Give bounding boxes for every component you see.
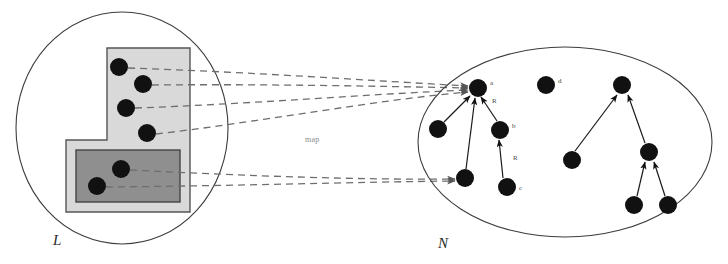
graph-node-h	[563, 151, 581, 169]
graph-edge-label-R2: R	[513, 154, 518, 162]
graph-edge-j-to-i	[637, 162, 645, 196]
right-set-group: a b c d R R N	[418, 47, 712, 251]
left-point-p2	[134, 75, 152, 93]
graph-node-e	[456, 169, 474, 187]
right-set-label: N	[437, 235, 449, 251]
graph-node-g	[613, 76, 631, 94]
left-set-group: L	[16, 12, 228, 248]
graph-edge-c-to-b	[499, 140, 503, 178]
graph-edge-f-to-a	[444, 96, 470, 122]
left-point-p3	[117, 99, 135, 117]
graph-node-label-a: a	[490, 79, 494, 87]
left-point-p6	[88, 177, 106, 195]
graph-node-c	[498, 178, 516, 196]
graph-node-label-b: b	[512, 122, 516, 130]
figure-root: L map	[0, 0, 728, 264]
map-label: map	[305, 135, 320, 144]
graph-node-j	[625, 196, 643, 214]
right-edges-group	[444, 95, 665, 196]
figure-canvas: L map	[0, 0, 728, 264]
map-arrow-m2	[152, 85, 468, 88]
graph-edge-e-to-a	[466, 98, 475, 169]
left-set-label: L	[52, 232, 61, 248]
left-point-p1	[110, 58, 128, 76]
right-nodes-group	[429, 76, 677, 214]
graph-edge-i-to-g	[628, 95, 645, 143]
graph-node-k	[659, 196, 677, 214]
graph-node-label-c: c	[519, 184, 522, 192]
graph-node-label-d: d	[558, 77, 562, 85]
left-point-p5	[112, 160, 130, 178]
graph-node-a	[469, 79, 487, 97]
left-point-p4	[138, 124, 156, 142]
graph-edge-k-to-i	[654, 162, 665, 196]
graph-edge-label-R1: R	[492, 97, 497, 105]
graph-node-i	[640, 143, 658, 161]
graph-node-d	[537, 76, 555, 94]
map-arrow-m4	[156, 92, 468, 134]
inner-rectangle-region	[76, 150, 180, 202]
graph-node-b	[491, 121, 509, 139]
graph-node-f	[429, 120, 447, 138]
graph-edge-h-to-g	[575, 95, 617, 151]
